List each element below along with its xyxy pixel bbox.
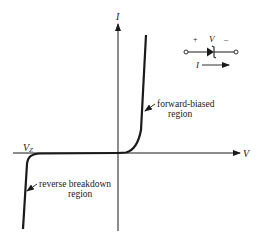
forward-label-line2: region: [168, 109, 193, 119]
forward-pointer: [145, 104, 155, 111]
terminal-left-icon: [184, 50, 188, 54]
symbol-current: I: [195, 60, 200, 70]
zener-iv-diagram: I V VZ forward-biased region reverse bre…: [0, 0, 259, 241]
symbol-plus: +: [193, 35, 198, 44]
zener-diode-symbol: + V – I: [184, 34, 238, 70]
vz-label: VZ: [23, 142, 33, 154]
reverse-label-line2: region: [68, 189, 93, 199]
forward-label-line1: forward-biased: [157, 99, 215, 109]
symbol-minus: –: [223, 35, 229, 44]
i-axis-label: I: [115, 11, 120, 22]
terminal-right-icon: [234, 50, 238, 54]
v-axis-label: V: [243, 148, 251, 159]
diode-triangle-icon: [207, 48, 214, 57]
forward-curve: [118, 35, 146, 153]
symbol-voltage: V: [209, 34, 216, 44]
reverse-label-line1: reverse breakdown: [39, 179, 111, 189]
reverse-pointer: [27, 184, 37, 191]
